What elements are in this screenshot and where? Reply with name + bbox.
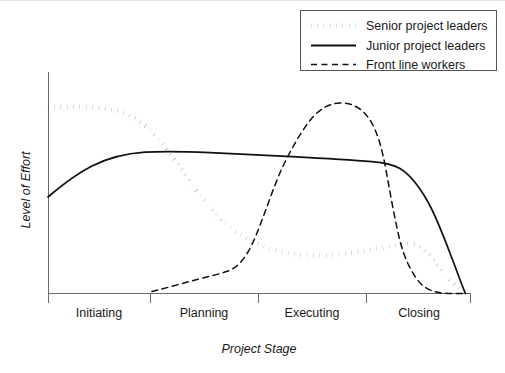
x-category-label-executing: Executing (285, 306, 340, 320)
series-senior-project-leaders (48, 107, 466, 294)
chart-legend: Senior project leaders Junior project le… (301, 11, 497, 73)
x-category-label-closing: Closing (398, 306, 440, 320)
x-category-label-initiating: Initiating (76, 306, 123, 320)
series-group (48, 103, 466, 294)
legend-label-junior: Junior project leaders (366, 39, 486, 53)
y-axis-title: Level of Effort (19, 151, 33, 229)
series-front-line-workers (152, 103, 466, 294)
series-junior-project-leaders (48, 152, 466, 294)
legend-label-senior: Senior project leaders (366, 19, 488, 33)
legend-label-front-line: Front line workers (366, 58, 465, 72)
chart-container: Level of Effort Project Stage Initiating… (0, 0, 505, 373)
x-category-label-planning: Planning (180, 306, 229, 320)
x-axis-ticks (49, 294, 471, 304)
effort-by-stage-line-chart: Level of Effort Project Stage Initiating… (0, 0, 505, 373)
axes-group (49, 72, 472, 294)
x-axis-title: Project Stage (221, 342, 296, 356)
x-axis-category-labels: Initiating Planning Executing Closing (76, 306, 440, 320)
